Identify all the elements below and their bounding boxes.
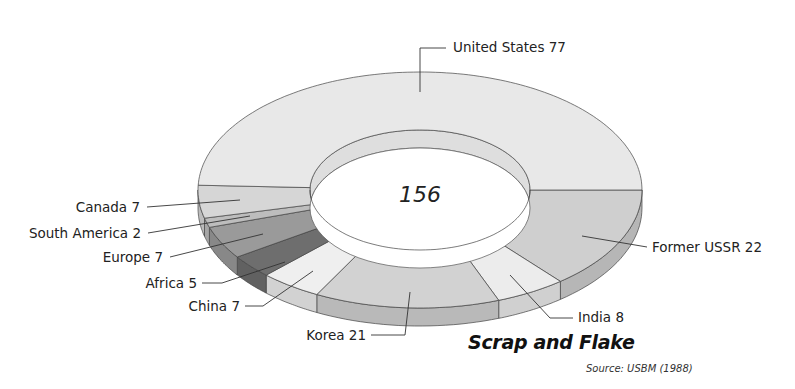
- label-india: India 8: [578, 309, 624, 325]
- label-europe: Europe 7: [103, 249, 163, 265]
- chart-source: Source: USBM (1988): [586, 363, 693, 374]
- label-south-america: South America 2: [29, 225, 141, 241]
- label-korea: Korea 21: [306, 327, 366, 343]
- label-canada: Canada 7: [76, 199, 140, 215]
- label-united-states: United States 77: [453, 39, 566, 55]
- label-africa: Africa 5: [146, 275, 197, 291]
- donut-chart: Former USSR 22India 8Korea 21China 7Afri…: [0, 0, 795, 389]
- chart-title: Scrap and Flake: [468, 331, 635, 353]
- label-former-ussr: Former USSR 22: [652, 239, 762, 255]
- label-china: China 7: [189, 298, 240, 314]
- center-total: 156: [399, 182, 441, 207]
